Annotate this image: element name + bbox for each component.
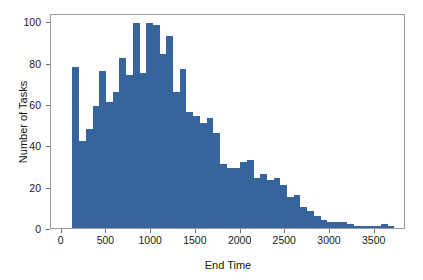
histogram-bar [334, 222, 341, 228]
histogram-bar [368, 226, 375, 228]
y-tick-label: 80 [29, 58, 41, 69]
histogram-bar [381, 224, 388, 228]
histogram-bar [354, 226, 361, 228]
x-axis-title: End Time [50, 259, 406, 271]
histogram-bar [240, 162, 247, 228]
histogram-bar [79, 141, 86, 228]
x-tick-label: 500 [97, 235, 115, 246]
histogram-bar [180, 69, 187, 228]
histogram-bar [300, 207, 307, 228]
histogram-bar [193, 116, 200, 228]
histogram-bar [213, 133, 220, 228]
histogram-bar [287, 197, 294, 228]
histogram-bar [113, 92, 120, 228]
histogram-bar [321, 220, 328, 228]
histogram-bar [173, 92, 180, 228]
x-tick-mark [329, 229, 330, 233]
histogram-bar [186, 112, 193, 228]
x-tick-label: 2000 [228, 235, 251, 246]
histogram-bar [93, 106, 100, 228]
x-tick-label: 1000 [138, 235, 161, 246]
histogram-bar [388, 226, 395, 228]
x-tick-label: 3000 [317, 235, 340, 246]
x-tick-label: 0 [58, 235, 64, 246]
histogram-bar [254, 178, 261, 228]
x-tick-mark [195, 229, 196, 233]
histogram-bar [119, 58, 126, 228]
histogram-bar [140, 73, 147, 228]
histogram-bar [294, 195, 301, 228]
histogram-bars [51, 15, 404, 228]
x-tick-label: 3500 [362, 235, 385, 246]
histogram-bar [307, 211, 314, 228]
histogram-bar [72, 67, 79, 228]
x-tick-label: 2500 [273, 235, 296, 246]
histogram-bar [347, 224, 354, 228]
histogram-bar [274, 178, 281, 228]
histogram-bar [327, 222, 334, 228]
histogram-bar [146, 23, 153, 228]
histogram-bar [133, 23, 140, 228]
histogram-bar [361, 226, 368, 228]
x-tick-mark [105, 229, 106, 233]
histogram-bar [166, 36, 173, 228]
histogram-bar [153, 25, 160, 228]
x-tick-mark [284, 229, 285, 233]
y-tick-label: 60 [29, 100, 41, 111]
histogram-bar [341, 222, 348, 228]
histogram-bar [99, 71, 106, 228]
histogram-bar [106, 102, 113, 228]
y-tick-label: 0 [35, 224, 41, 235]
histogram-bar [233, 168, 240, 228]
y-tick-label: 40 [29, 141, 41, 152]
x-tick-label: 1500 [183, 235, 206, 246]
y-tick-label: 100 [23, 17, 41, 28]
y-tick-label: 20 [29, 182, 41, 193]
histogram-bar [280, 185, 287, 228]
x-tick-mark [240, 229, 241, 233]
histogram-bar [126, 75, 133, 228]
plot-area [50, 14, 405, 229]
x-tick-mark [150, 229, 151, 233]
histogram-bar [247, 160, 254, 228]
histogram-bar [260, 174, 267, 228]
histogram-bar [227, 168, 234, 228]
histogram-bar [86, 129, 93, 228]
histogram-bar [200, 123, 207, 228]
histogram-bar [374, 226, 381, 228]
histogram-bar [314, 216, 321, 228]
histogram-bar [267, 180, 274, 228]
histogram-bar [207, 118, 214, 228]
y-axis: 020406080100 [0, 0, 50, 230]
x-tick-mark [61, 229, 62, 233]
histogram-bar [220, 164, 227, 228]
x-tick-mark [374, 229, 375, 233]
histogram-bar [160, 54, 167, 228]
histogram-figure: Number of Tasks 020406080100 05001000150… [0, 0, 423, 280]
